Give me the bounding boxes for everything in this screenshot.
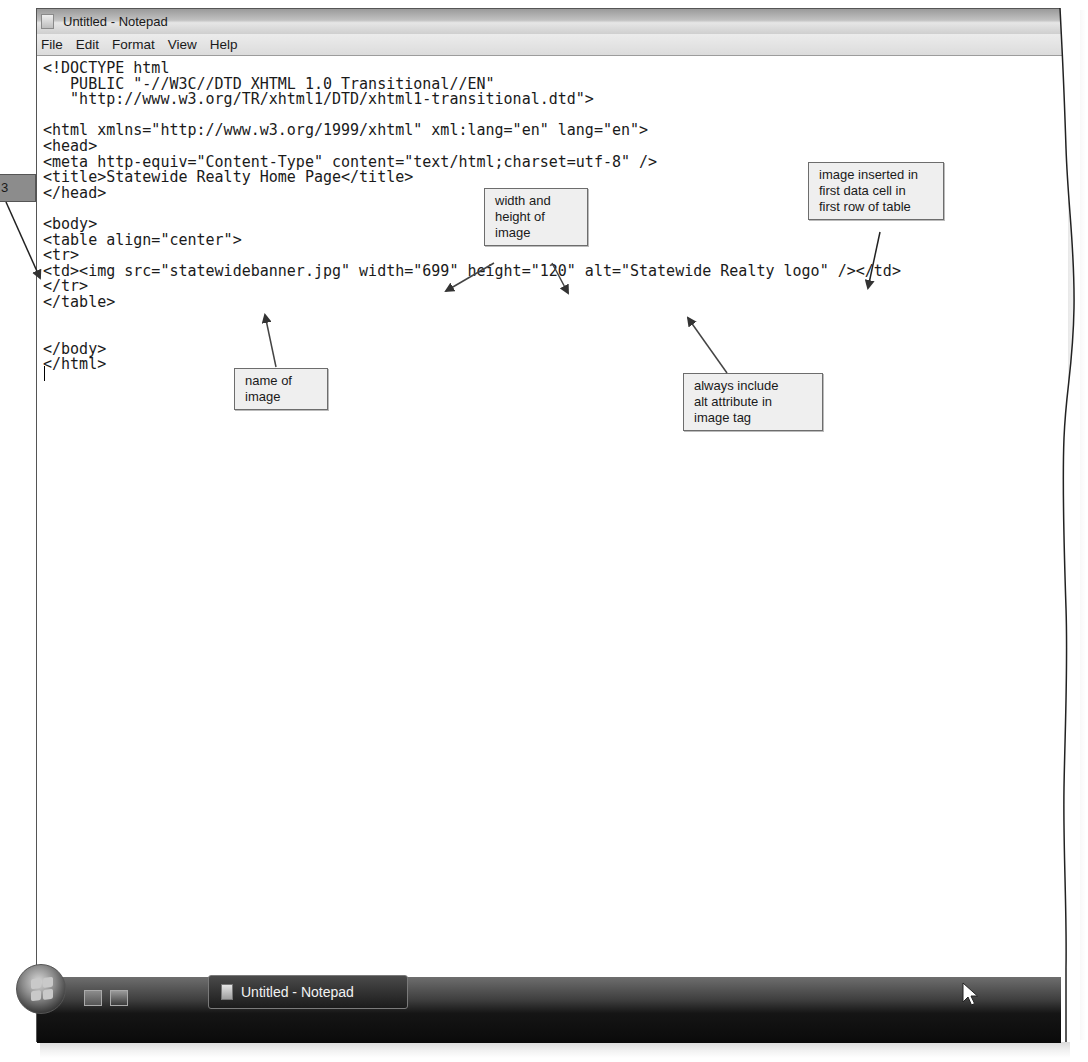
code-line: ​: [43, 201, 901, 217]
code-line: <td><img src="statewidebanner.jpg" width…: [43, 264, 901, 280]
code-line: ​: [43, 311, 901, 327]
menu-file[interactable]: File: [40, 37, 64, 52]
code-line: <table align="center">: [43, 233, 901, 249]
taskbar-button-label: Untitled - Notepad: [241, 984, 354, 1000]
callout-name-of-image: name of image: [234, 368, 328, 410]
menu-view[interactable]: View: [167, 37, 198, 52]
notepad-icon: [221, 984, 233, 1000]
taskbar-button-notepad[interactable]: Untitled - Notepad: [208, 975, 408, 1009]
code-line: </tr>: [43, 279, 901, 295]
window-title: Untitled - Notepad: [63, 14, 168, 29]
notepad-icon: [41, 14, 54, 29]
step-number-badge: 3: [0, 174, 36, 202]
taskbar: [37, 977, 1061, 1043]
switch-windows-icon[interactable]: [110, 990, 128, 1006]
menu-edit[interactable]: Edit: [75, 37, 100, 52]
code-line: </html>: [43, 357, 901, 373]
text-caret: [44, 366, 45, 381]
code-line: </table>: [43, 295, 901, 311]
callout-width-height: width and height of image: [484, 188, 588, 246]
code-line: ​: [43, 326, 901, 342]
show-desktop-icon[interactable]: [84, 990, 102, 1006]
start-button[interactable]: [16, 964, 66, 1014]
title-bar[interactable]: Untitled - Notepad: [37, 9, 1067, 34]
code-text[interactable]: <!DOCTYPE html PUBLIC "-//W3C//DTD XHTML…: [43, 61, 901, 373]
code-line: <html xmlns="http://www.w3.org/1999/xhtm…: [43, 123, 901, 139]
code-line: <title>Statewide Realty Home Page</title…: [43, 170, 901, 186]
menu-bar: File Edit Format View Help: [37, 34, 1067, 56]
code-line: </head>: [43, 186, 901, 202]
mouse-pointer-icon: [962, 982, 980, 1008]
menu-format[interactable]: Format: [111, 37, 156, 52]
menu-help[interactable]: Help: [209, 37, 239, 52]
windows-logo-icon: [31, 977, 53, 1001]
callout-image-inserted: image inserted in first data cell in fir…: [808, 162, 944, 220]
code-line: </body>: [43, 342, 901, 358]
code-line: "http://www.w3.org/TR/xhtml1/DTD/xhtml1-…: [43, 92, 901, 108]
callout-alt-attribute: always include alt attribute in image ta…: [683, 373, 823, 431]
